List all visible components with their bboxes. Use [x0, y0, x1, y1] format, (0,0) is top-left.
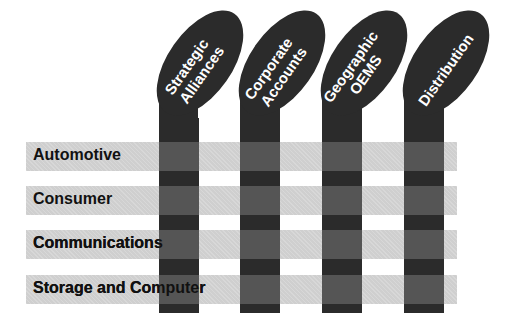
intersection: [159, 186, 199, 215]
intersection: [240, 230, 280, 259]
row-label-consumer: Consumer: [33, 190, 112, 208]
intersection: [159, 230, 199, 259]
intersection: [159, 142, 199, 171]
intersection: [322, 142, 362, 171]
intersection: [240, 142, 280, 171]
intersection: [322, 230, 362, 259]
intersection: [404, 275, 444, 304]
intersection: [322, 275, 362, 304]
intersection: [240, 275, 280, 304]
intersection: [322, 186, 362, 215]
intersection: [404, 142, 444, 171]
row-label-communications-overlay: Communications: [33, 234, 163, 252]
row-label-storage-overlay: Storage and Computer: [33, 279, 205, 297]
intersection: [404, 230, 444, 259]
intersection: [404, 186, 444, 215]
intersection: [240, 186, 280, 215]
column-heads: Strategic Alliances Corporate Accounts G…: [0, 0, 520, 140]
row-label-automotive: Automotive: [33, 146, 121, 164]
